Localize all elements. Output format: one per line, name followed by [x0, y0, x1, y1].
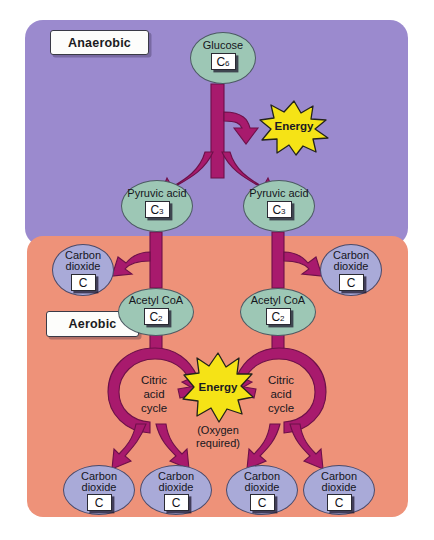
formula-element: C [335, 497, 344, 509]
formula-element: C [271, 311, 280, 323]
arrow-cycle-left-down-a [112, 424, 146, 469]
molecule-name: Acetyl CoA [129, 295, 183, 306]
molecule-pyruvic-acid-left: Pyruvic acid C3 [121, 180, 193, 232]
formula-element: C [150, 204, 159, 216]
oxygen-note-line2: required) [178, 437, 258, 450]
molecule-pyruvic-acid-right: Pyruvic acid C3 [243, 180, 315, 232]
molecule-name-line2: dioxide [82, 482, 117, 493]
formula-element: C [347, 277, 356, 289]
energy-burst-label: Energy [182, 381, 254, 393]
molecule-name-line2: dioxide [66, 261, 101, 272]
formula-box: C2 [144, 308, 169, 325]
formula-subscript: 2 [280, 315, 284, 323]
arrow-pyruvic-left-stem [150, 232, 162, 288]
molecule-name: Pyruvic acid [249, 188, 308, 199]
anaerobic-stage-label: Anaerobic [50, 30, 149, 55]
arrow-cycle-right-down-b [290, 424, 323, 469]
arrow-pyruvic-right-stem [272, 232, 284, 288]
molecule-acetyl-coa-left: Acetyl CoA C2 [118, 288, 194, 336]
citric-acid-cycle-label-right: Citric acid cycle [252, 373, 310, 415]
cycle-line-1: Citric [252, 373, 310, 387]
molecule-name-line2: dioxide [334, 261, 369, 272]
formula-box: C3 [145, 201, 170, 218]
oxygen-required-note: (Oxygen required) [178, 424, 258, 450]
formula-element: C [172, 497, 181, 509]
molecule-glucose: Glucose C6 [190, 32, 256, 84]
molecule-name-line2: dioxide [159, 482, 194, 493]
formula-subscript: 3 [281, 208, 285, 216]
molecule-co2-bottom-1: Carbon dioxide C [63, 465, 135, 515]
arrow-glucose-stem [211, 84, 224, 178]
formula-box: C3 [267, 201, 292, 218]
formula-box: C [339, 274, 364, 291]
molecule-name-line2: dioxide [245, 482, 280, 493]
arrow-co2-upper-left [112, 252, 150, 276]
molecule-name: Pyruvic acid [127, 188, 186, 199]
molecule-name: Acetyl CoA [251, 295, 305, 306]
formula-box: C2 [266, 308, 291, 325]
oxygen-note-line1: (Oxygen [178, 424, 258, 437]
energy-burst-anaerobic: Energy [258, 100, 330, 156]
molecule-co2-upper-left: Carbon dioxide C [52, 244, 114, 296]
formula-box: C [327, 494, 352, 511]
formula-subscript: 2 [158, 315, 162, 323]
cycle-line-2: acid [252, 387, 310, 401]
energy-burst-aerobic: Energy [182, 352, 254, 424]
citric-acid-cycle-label-left: Citric acid cycle [125, 373, 183, 415]
cycle-line-1: Citric [125, 373, 183, 387]
arrow-co2-upper-right [284, 252, 322, 276]
formula-box: C [87, 494, 112, 511]
formula-box: C [164, 494, 189, 511]
formula-element: C [258, 497, 267, 509]
formula-box: C6 [211, 53, 236, 70]
molecule-acetyl-coa-right: Acetyl CoA C2 [240, 288, 316, 336]
formula-element: C [95, 497, 104, 509]
formula-element: C [79, 277, 88, 289]
formula-element: C [149, 311, 158, 323]
formula-subscript: 3 [159, 208, 163, 216]
formula-box: C [71, 274, 96, 291]
formula-box: C [250, 494, 275, 511]
cycle-line-3: cycle [125, 401, 183, 415]
molecule-name-line2: dioxide [322, 482, 357, 493]
energy-burst-label: Energy [258, 120, 330, 132]
molecule-co2-bottom-4: Carbon dioxide C [303, 465, 375, 515]
diagram-canvas: Anaerobic Aerobic Glucose C6 Energy Pyru… [0, 0, 434, 540]
molecule-name: Glucose [203, 40, 243, 51]
cycle-line-2: acid [125, 387, 183, 401]
formula-subscript: 6 [225, 60, 229, 68]
arrow-glucose-to-energy [224, 112, 258, 144]
molecule-co2-upper-right: Carbon dioxide C [320, 244, 382, 296]
cycle-line-3: cycle [252, 401, 310, 415]
molecule-co2-bottom-3: Carbon dioxide C [226, 465, 298, 515]
molecule-co2-bottom-2: Carbon dioxide C [140, 465, 212, 515]
formula-element: C [272, 204, 281, 216]
formula-element: C [216, 56, 225, 68]
